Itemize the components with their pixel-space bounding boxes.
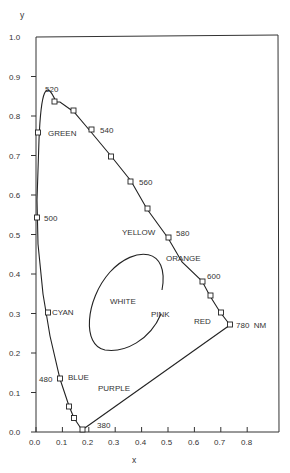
region-label-red: RED	[194, 317, 211, 326]
y-tick-label: 0.8	[9, 112, 21, 121]
y-tick-label: 0.4	[9, 270, 21, 279]
x-tick-label: 0.7	[214, 438, 226, 447]
y-tick-label: 0.0	[9, 428, 21, 437]
marker-560	[128, 179, 133, 184]
wavelength-label-480: 480	[39, 375, 53, 384]
spectral-locus-curve	[37, 90, 230, 430]
marker-520	[52, 99, 57, 104]
x-tick-label: 0.4	[135, 438, 147, 447]
spectral-markers	[35, 99, 233, 432]
y-tick-label: 1.0	[9, 33, 21, 42]
x-axis: 0.0 0.1 0.2 0.3 0.4 0.5 0.6 0.7 0.8	[29, 427, 253, 447]
y-axis-title: y	[20, 10, 25, 20]
marker	[109, 154, 114, 159]
marker	[72, 416, 77, 421]
y-tick-label: 0.7	[9, 152, 21, 161]
y-tick-label: 0.5	[9, 231, 21, 240]
region-label-cyan: CYAN	[52, 308, 74, 317]
marker-500	[35, 215, 40, 220]
wavelength-label-520: 520	[45, 85, 59, 94]
wavelength-label-780: 780 NM	[236, 321, 267, 330]
wavelength-label-600: 600	[207, 272, 221, 281]
region-label-pink: PINK	[151, 310, 170, 319]
wavelength-label-560: 560	[139, 178, 153, 187]
x-tick-label: 0.8	[241, 438, 253, 447]
marker	[67, 404, 72, 409]
marker-green	[36, 130, 41, 135]
y-axis: 0.0 0.1 0.2 0.3 0.4 0.5 0.6 0.7 0.8 0.9 …	[9, 33, 36, 437]
y-tick-label: 0.1	[9, 389, 21, 398]
wavelength-label-500: 500	[44, 214, 58, 223]
purple-line	[82, 325, 230, 430]
marker-cyan	[46, 310, 51, 315]
x-axis-title: x	[132, 455, 137, 465]
marker	[208, 293, 213, 298]
marker-540	[89, 127, 94, 132]
region-label-white: WHITE	[110, 297, 136, 306]
marker-580	[166, 235, 171, 240]
x-tick-label: 0.5	[161, 438, 173, 447]
region-label-orange: ORANGE	[166, 254, 201, 263]
region-label-green: GREEN	[48, 129, 77, 138]
region-label-purple: PURPLE	[98, 384, 130, 393]
y-tick-label: 0.2	[9, 349, 21, 358]
chromaticity-chart: y 0.0 0.1 0.2 0.3 0.4 0.5 0.6 0.7 0.8 0.…	[0, 0, 290, 473]
x-tick-label: 0.0	[29, 438, 41, 447]
region-label-yellow: YELLOW	[122, 228, 156, 237]
x-tick-label: 0.1	[56, 438, 68, 447]
y-tick-label: 0.3	[9, 310, 21, 319]
marker	[71, 108, 76, 113]
wavelength-label-380: 380	[97, 421, 111, 430]
wavelength-label-580: 580	[176, 229, 190, 238]
x-tick-label: 0.6	[188, 438, 200, 447]
x-tick-label: 0.2	[82, 438, 94, 447]
y-tick-label: 0.9	[9, 73, 21, 82]
region-label-blue: BLUE	[68, 373, 89, 382]
marker-380	[80, 427, 85, 432]
marker	[145, 206, 150, 211]
wavelength-label-540: 540	[100, 126, 114, 135]
x-tick-label: 0.3	[108, 438, 120, 447]
y-tick-label: 0.6	[9, 191, 21, 200]
marker	[219, 310, 224, 315]
marker-600	[200, 279, 205, 284]
marker-480	[58, 376, 63, 381]
marker-780	[228, 322, 233, 327]
